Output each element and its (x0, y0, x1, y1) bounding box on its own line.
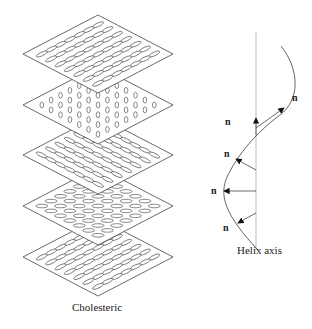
helix-axis-label: Helix axis (237, 244, 282, 256)
helix-curve (224, 46, 295, 250)
director-label-3: n (224, 148, 230, 159)
director-label-5: n (223, 222, 229, 233)
cholesteric-diagram (0, 0, 312, 329)
director-label-1: n (292, 92, 298, 103)
director-label-2: n (225, 116, 231, 127)
cholesteric-label: Cholesteric (72, 301, 122, 313)
director-label-4: n (211, 185, 217, 196)
plate-1 (23, 15, 173, 93)
